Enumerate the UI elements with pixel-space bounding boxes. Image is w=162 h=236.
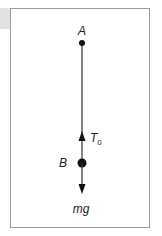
label-weight: mg [73, 202, 90, 216]
label-b: B [59, 156, 67, 170]
tension-arrow-icon [79, 131, 86, 141]
weight-arrow-icon [79, 184, 86, 194]
label-tension: T0 [90, 131, 102, 147]
point-a-dot [79, 40, 85, 46]
free-body-diagram: A T0 B mg [0, 0, 162, 236]
label-a: A [77, 24, 86, 38]
